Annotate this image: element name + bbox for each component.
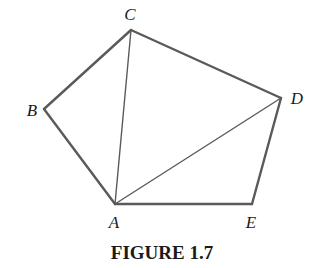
vertex-label-b: B <box>27 101 38 120</box>
vertex-label-a: A <box>108 213 120 232</box>
vertex-label-e: E <box>245 213 257 232</box>
figure-caption: FIGURE 1.7 <box>111 242 214 263</box>
side-ab <box>44 109 115 204</box>
vertex-label-d: D <box>290 89 304 108</box>
edges-group <box>44 30 281 204</box>
diagonal-ac <box>115 30 131 204</box>
pentagon-figure: ABCDE FIGURE 1.7 <box>0 0 323 268</box>
side-cd <box>131 30 281 98</box>
labels-group: ABCDE <box>27 5 304 232</box>
vertex-label-c: C <box>124 5 136 24</box>
side-bc <box>44 30 131 109</box>
